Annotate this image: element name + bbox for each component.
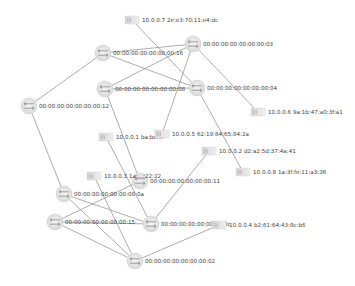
switch-icon bbox=[189, 80, 205, 96]
switch-label: 00:00:00:00:00:00:00:12 bbox=[39, 103, 109, 109]
switch-node-s02[interactable]: 00:00:00:00:00:00:00:02 bbox=[127, 253, 215, 269]
topology-canvas[interactable]: 00:00:00:00:00:00:00:1600:00:00:00:00:00… bbox=[0, 0, 355, 286]
host-node-h6[interactable]: 10.0.0.6 9a:1b:47:a0:3f:a1 bbox=[251, 108, 343, 116]
host-node-h2[interactable]: 10.0.0.2 d2:a2:5d:37:4a:41 bbox=[202, 147, 296, 155]
switch-label: 00:00:00:00:00:00:00:08 bbox=[115, 86, 186, 92]
host-icon bbox=[251, 108, 265, 116]
host-node-h8[interactable]: 10.0.0.8 1a:3f:fe:11:a3:36 bbox=[236, 168, 327, 176]
switch-icon bbox=[21, 98, 37, 114]
link-s12-s0a[interactable] bbox=[29, 106, 64, 194]
host-label: 10.0.0.7 2e:e3:70:11:e4:dc bbox=[142, 17, 218, 23]
switch-node-s12[interactable]: 00:00:00:00:00:00:00:12 bbox=[21, 98, 109, 114]
switch-node-s03[interactable]: 00:00:00:00:00:00:00:03 bbox=[185, 36, 274, 52]
host-icon bbox=[99, 133, 113, 141]
switch-icon bbox=[143, 216, 159, 232]
switch-label: 00:00:00:00:00:00:00:02 bbox=[145, 258, 215, 264]
host-node-h5[interactable]: 10.0.0.5 62:19:84:65:84:2a bbox=[155, 130, 249, 138]
link-s15-s02[interactable] bbox=[55, 222, 135, 261]
link-s0a-s02[interactable] bbox=[64, 194, 135, 261]
switch-node-s15[interactable]: 00:00:00:00:00:00:00:15 bbox=[47, 214, 136, 230]
nodes-layer: 00:00:00:00:00:00:00:1600:00:00:00:00:00… bbox=[21, 16, 343, 269]
link-s04-h8[interactable] bbox=[197, 88, 243, 172]
switch-label: 00:00:00:00:00:00:00:04 bbox=[207, 85, 278, 91]
host-node-h4[interactable]: 10.0.0.4 b2:61:64:43:8c:b6 bbox=[212, 221, 306, 229]
host-icon bbox=[155, 130, 169, 138]
switch-node-s08[interactable]: 00:00:00:00:00:00:00:08 bbox=[97, 81, 186, 97]
host-label: 10.0.0.3 1a:...:22:22 bbox=[104, 173, 161, 179]
switch-label: 00:00:00:00:00:00:00:15 bbox=[65, 219, 136, 225]
host-icon bbox=[125, 16, 139, 24]
link-h2-s0c[interactable] bbox=[151, 151, 209, 224]
switch-icon bbox=[127, 253, 143, 269]
link-s03-h6[interactable] bbox=[193, 44, 258, 112]
host-node-h7[interactable]: 10.0.0.7 2e:e3:70:11:e4:dc bbox=[125, 16, 218, 24]
host-icon bbox=[87, 172, 101, 180]
switch-label: 00:00:00:00:00:00:00:03 bbox=[203, 41, 274, 47]
host-icon bbox=[202, 147, 216, 155]
switch-icon bbox=[185, 36, 201, 52]
switch-label: 00:00:00:00:00:00:00:0a bbox=[74, 191, 144, 197]
switch-node-s16[interactable]: 00:00:00:00:00:00:00:16 bbox=[95, 45, 184, 61]
link-s16-s12[interactable] bbox=[29, 53, 103, 106]
host-label: 10.0.0.4 b2:61:64:43:8c:b6 bbox=[229, 222, 306, 228]
switch-icon bbox=[47, 214, 63, 230]
host-label: 10.0.0.2 d2:a2:5d:37:4a:41 bbox=[219, 148, 296, 154]
host-node-h1[interactable]: 10.0.0.1 ba:bc:... bbox=[99, 133, 164, 141]
host-label: 10.0.0.6 9a:1b:47:a0:3f:a1 bbox=[268, 109, 343, 115]
host-icon bbox=[212, 221, 226, 229]
host-icon bbox=[236, 168, 250, 176]
switch-label: 00:00:00:00:00:00:00:16 bbox=[113, 50, 184, 56]
host-label: 10.0.0.8 1a:3f:fe:11:a3:36 bbox=[253, 169, 327, 175]
host-node-h3[interactable]: 10.0.0.3 1a:...:22:22 bbox=[87, 172, 161, 180]
switch-icon bbox=[56, 186, 72, 202]
switch-icon bbox=[97, 81, 113, 97]
host-label: 10.0.0.5 62:19:84:65:84:2a bbox=[172, 131, 249, 137]
switch-icon bbox=[95, 45, 111, 61]
switch-node-s04[interactable]: 00:00:00:00:00:00:00:04 bbox=[189, 80, 278, 96]
